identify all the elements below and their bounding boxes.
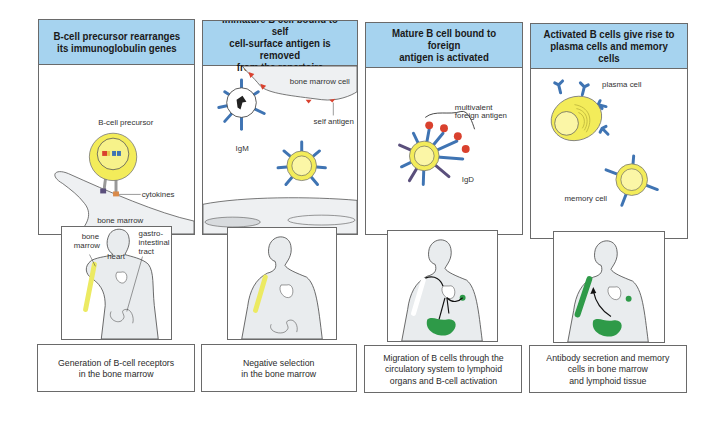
gene-segment-icon — [117, 151, 121, 156]
body-diagram-2 — [227, 227, 337, 340]
human-body-bone-marrow — [228, 228, 336, 339]
self-antigen-label: self antigen — [314, 117, 354, 126]
stage-4-header: Activated B cells give rise to plasma ce… — [531, 24, 687, 69]
stage-3-caption-text: Migration of B cells through the circula… — [383, 352, 503, 387]
b-cell-activation-illustration: multivalent foreign antigen IgD — [366, 68, 522, 234]
stromal-process — [205, 217, 260, 227]
bone-marrow-cell-label: bone marrow cell — [290, 77, 350, 86]
antigen-label: multivalent — [455, 103, 493, 112]
body-diagram-4 — [553, 231, 665, 343]
self-antigen-icon — [306, 100, 312, 104]
plasma-memory-illustration: plasma cell memory cell — [531, 69, 687, 238]
receptor-icon — [100, 188, 106, 193]
cytokine-icon — [113, 191, 119, 196]
antigen-epitope-icon — [425, 121, 433, 129]
body-diagram-1: bone marrow heart gastro- intestinal tra… — [61, 226, 172, 340]
b-cell-precursor-label: B-cell precursor — [98, 118, 154, 127]
antigen-epitope-icon — [440, 124, 448, 132]
stage-2-header: Immature B cell bound to self cell-surfa… — [203, 21, 357, 66]
memory-cell-label: memory cell — [565, 194, 608, 203]
stage-3-illustration: multivalent foreign antigen IgD — [366, 68, 522, 234]
stage-4-illustration: plasma cell memory cell — [531, 69, 687, 238]
stage-4-caption-text: Antibody secretion and memory cells in b… — [547, 352, 670, 387]
stromal-process — [288, 215, 355, 225]
nucleus-icon — [621, 169, 643, 191]
stage-1-panel: B-cell precursor rearranges its immunogl… — [38, 19, 195, 235]
igm-label: IgM — [236, 144, 249, 153]
nucleus-icon — [414, 146, 434, 166]
stage-2-panel: Immature B cell bound to self cell-surfa… — [202, 20, 358, 235]
stage-1-header: B-cell precursor rearranges its immunogl… — [39, 20, 194, 65]
igd-label: IgD — [462, 175, 475, 184]
b-cell-precursor-illustration: B-cell precursor cytokines bone marrow s… — [39, 65, 194, 234]
nucleus-icon — [555, 112, 579, 136]
body-diagram-3 — [387, 230, 498, 342]
heart-label: heart — [107, 252, 126, 261]
stage-1-title: B-cell precursor rearranges its immunogl… — [53, 30, 180, 54]
antigen-epitope-icon — [462, 145, 470, 153]
stage-3-header: Mature B cell bound to foreign antigen i… — [366, 23, 522, 68]
human-body-antibody-secretion — [554, 232, 664, 342]
stage-4-panel: Activated B cells give rise to plasma ce… — [530, 23, 688, 239]
stage-4-title: Activated B cells give rise to plasma ce… — [541, 28, 677, 64]
negative-selection-illustration: bone marrow cell self antigen IgM — [203, 66, 357, 234]
gene-segment-icon — [107, 151, 110, 156]
stage-4-caption: Antibody secretion and memory cells in b… — [529, 345, 687, 393]
stage-1-caption: Generation of B-cell receptors in the bo… — [37, 344, 195, 392]
stage-3-panel: Mature B cell bound to foreign antigen i… — [365, 22, 523, 235]
human-body-migration — [388, 231, 497, 341]
stage-3-caption: Migration of B cells through the circula… — [364, 345, 522, 393]
bone-marrow-label: bone — [82, 232, 100, 241]
stage-2-caption: Negative selection in the bone marrow — [201, 344, 357, 392]
stage-3-title: Mature B cell bound to foreign antigen i… — [376, 27, 512, 63]
antigen-label: foreign antigen — [455, 111, 507, 120]
spleen-highlight — [626, 296, 632, 302]
gi-tract-label: intestinal — [139, 238, 170, 247]
antigen-epitope-icon — [454, 132, 462, 140]
stage-2-illustration: bone marrow cell self antigen IgM — [203, 66, 357, 234]
human-body-bone-marrow: bone marrow heart gastro- intestinal tra… — [62, 227, 171, 339]
stage-1-illustration: B-cell precursor cytokines bone marrow s… — [39, 65, 194, 234]
cytokines-label: cytokines — [142, 190, 175, 199]
nucleus-icon — [292, 156, 312, 176]
gene-segment-icon — [102, 151, 107, 156]
bone-marrow-label: marrow — [74, 241, 100, 250]
gene-segment-icon — [112, 151, 116, 156]
stage-2-caption-text: Negative selection in the bone marrow — [242, 357, 317, 380]
stromal-cell-label: bone marrow — [97, 216, 143, 225]
gi-tract-label: gastro- — [139, 229, 164, 238]
stage-1-caption-text: Generation of B-cell receptors in the bo… — [58, 357, 174, 380]
plasma-cell-label: plasma cell — [602, 80, 642, 89]
gi-tract-label: tract — [139, 247, 155, 256]
